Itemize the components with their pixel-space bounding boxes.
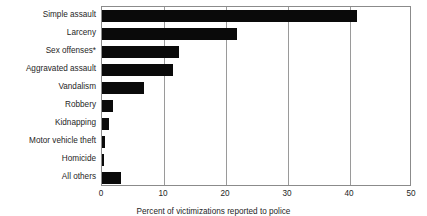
category-label: Vandalism xyxy=(0,78,96,96)
category-label: All others xyxy=(0,168,96,186)
bar-row xyxy=(102,133,410,151)
x-tick-label: 20 xyxy=(205,188,245,200)
bar-rows xyxy=(102,7,410,185)
category-label: Aggravated assault xyxy=(0,60,96,78)
bar xyxy=(102,172,121,184)
bar xyxy=(102,154,104,166)
bar-row xyxy=(102,169,410,187)
bar xyxy=(102,10,357,22)
bar xyxy=(102,46,179,58)
category-label: Motor vehicle theft xyxy=(0,132,96,150)
x-tick-label: 0 xyxy=(81,188,121,200)
category-label: Robbery xyxy=(0,96,96,114)
horizontal-bar-chart: Simple assaultLarcenySex offenses*Aggrav… xyxy=(0,0,427,216)
bar-row xyxy=(102,115,410,133)
category-label: Sex offenses* xyxy=(0,42,96,60)
bar-row xyxy=(102,97,410,115)
x-tick-label: 40 xyxy=(329,188,369,200)
category-label: Kidnapping xyxy=(0,114,96,132)
x-tick-label: 30 xyxy=(267,188,307,200)
x-axis-tick-labels: 01020304050 xyxy=(0,188,427,200)
plot-area xyxy=(101,6,411,186)
bar-row xyxy=(102,7,410,25)
bar-row xyxy=(102,43,410,61)
x-axis-label: Percent of victimizations reported to po… xyxy=(0,207,427,216)
x-tick-label: 10 xyxy=(143,188,183,200)
bar-row xyxy=(102,79,410,97)
category-label: Larceny xyxy=(0,24,96,42)
category-label: Homicide xyxy=(0,150,96,168)
bar-row xyxy=(102,151,410,169)
y-axis-category-labels: Simple assaultLarcenySex offenses*Aggrav… xyxy=(0,6,96,186)
bar-row xyxy=(102,61,410,79)
x-tick-label: 50 xyxy=(391,188,427,200)
category-label: Simple assault xyxy=(0,6,96,24)
bar xyxy=(102,118,109,130)
bar xyxy=(102,64,173,76)
bar xyxy=(102,136,105,148)
bar xyxy=(102,28,237,40)
bar-row xyxy=(102,25,410,43)
bar xyxy=(102,82,144,94)
bar xyxy=(102,100,113,112)
